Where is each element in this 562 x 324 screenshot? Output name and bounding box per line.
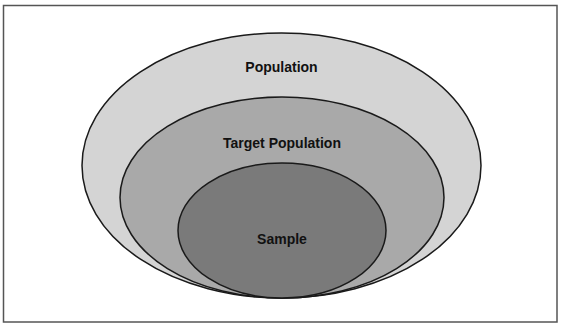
sample-label: Sample <box>257 231 307 247</box>
diagram-canvas: Population Target Population Sample <box>0 0 562 324</box>
sample-region: Sample <box>178 163 386 298</box>
population-label: Population <box>245 59 317 75</box>
target-population-label: Target Population <box>223 135 341 151</box>
